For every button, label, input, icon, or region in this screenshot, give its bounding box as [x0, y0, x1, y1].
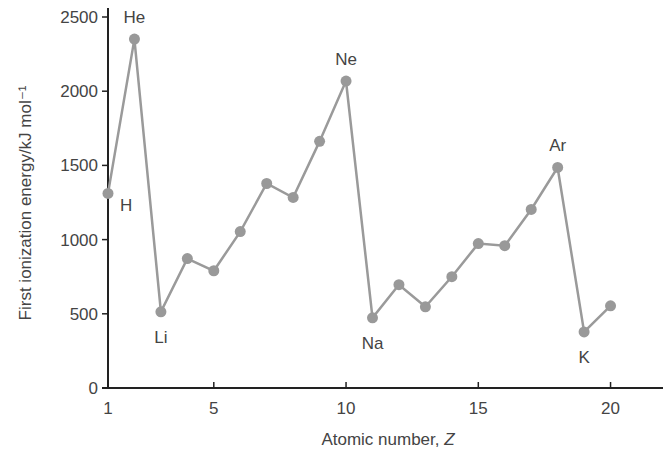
data-point: [235, 226, 246, 237]
data-point: [182, 253, 193, 264]
data-point: [341, 76, 352, 87]
y-tick-label: 2000: [60, 82, 98, 101]
x-tick-label: 15: [469, 399, 488, 418]
data-point: [552, 162, 563, 173]
data-point: [526, 204, 537, 215]
y-tick-label: 1500: [60, 156, 98, 175]
point-label-na: Na: [362, 334, 384, 353]
data-point: [367, 312, 378, 323]
y-tick-label: 2500: [60, 8, 98, 27]
x-tick-label: 1: [103, 399, 112, 418]
x-tick-label: 5: [209, 399, 218, 418]
ionization-energy-chart: 05001000150020002500 15101520 HHeLiNeNaA…: [0, 0, 670, 463]
x-axis-title: Atomic number, Z: [321, 430, 455, 449]
data-point: [155, 306, 166, 317]
data-point: [499, 240, 510, 251]
y-tick-label: 500: [70, 305, 98, 324]
x-tick-label: 20: [601, 399, 620, 418]
y-axis-title: First ionization energy/kJ mol⁻¹: [16, 85, 35, 320]
data-point: [605, 300, 616, 311]
data-point: [446, 271, 457, 282]
point-label-k: K: [578, 348, 590, 367]
data-point: [393, 279, 404, 290]
series: [103, 34, 617, 338]
point-labels: HHeLiNeNaArK: [120, 8, 590, 367]
point-label-he: He: [124, 8, 146, 27]
point-label-h: H: [120, 196, 132, 215]
data-point: [288, 192, 299, 203]
data-point: [314, 136, 325, 147]
y-tick-label: 1000: [60, 231, 98, 250]
data-point: [103, 188, 114, 199]
data-point: [208, 265, 219, 276]
y-ticks: 05001000150020002500: [60, 8, 108, 398]
data-point: [261, 178, 272, 189]
point-label-li: Li: [154, 328, 167, 347]
data-point: [420, 301, 431, 312]
x-tick-label: 10: [337, 399, 356, 418]
series-line: [108, 39, 611, 332]
point-label-ne: Ne: [335, 50, 357, 69]
data-point: [579, 326, 590, 337]
y-tick-label: 0: [89, 379, 98, 398]
data-point: [129, 34, 140, 45]
data-point: [473, 238, 484, 249]
point-label-ar: Ar: [549, 136, 566, 155]
